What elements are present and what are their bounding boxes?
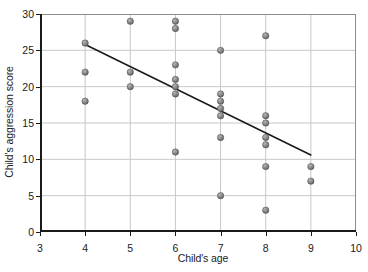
data-point [172, 18, 178, 24]
data-point [263, 163, 269, 169]
data-point [172, 149, 178, 155]
data-point [82, 69, 88, 75]
data-points [82, 18, 314, 213]
data-point [217, 134, 223, 140]
data-point [263, 134, 269, 140]
y-axis-tick-labels: 051015202530 [14, 0, 34, 272]
plot-area [40, 14, 356, 232]
data-point [217, 105, 223, 111]
y-tick-label: 5 [14, 191, 34, 201]
y-tick-label: 25 [14, 45, 34, 55]
data-point [308, 163, 314, 169]
y-tick-label: 0 [14, 227, 34, 237]
data-point [217, 192, 223, 198]
y-tick-label: 10 [14, 154, 34, 164]
plot-canvas [40, 14, 356, 232]
y-tick-label: 30 [14, 9, 34, 19]
data-point [217, 113, 223, 119]
x-axis-tick [85, 232, 86, 236]
y-tick-label: 15 [14, 118, 34, 128]
x-axis-tick [221, 232, 222, 236]
x-axis-tick [130, 232, 131, 236]
data-point [82, 40, 88, 46]
trend-line [85, 45, 311, 155]
data-point [172, 62, 178, 68]
data-point [172, 91, 178, 97]
data-point [172, 76, 178, 82]
data-point [127, 18, 133, 24]
data-point [263, 207, 269, 213]
data-point [172, 83, 178, 89]
x-axis-tick-labels: 345678910 [0, 238, 368, 252]
scatter-chart: Child's aggression score 051015202530 34… [0, 0, 368, 272]
data-point [217, 91, 223, 97]
data-point [217, 47, 223, 53]
x-axis-tick [311, 232, 312, 236]
x-tick-label: 3 [30, 242, 50, 254]
x-axis-tick [40, 232, 41, 236]
data-point [263, 142, 269, 148]
x-axis-tick [356, 232, 357, 236]
data-point [217, 98, 223, 104]
data-point [127, 83, 133, 89]
data-point [263, 33, 269, 39]
data-point [82, 98, 88, 104]
data-point [172, 25, 178, 31]
x-axis-title: Child's age [48, 252, 358, 264]
y-tick-label: 20 [14, 82, 34, 92]
data-point [127, 69, 133, 75]
data-point [263, 120, 269, 126]
data-point [308, 178, 314, 184]
x-axis-tick [175, 232, 176, 236]
data-point [263, 113, 269, 119]
x-axis-tick [266, 232, 267, 236]
